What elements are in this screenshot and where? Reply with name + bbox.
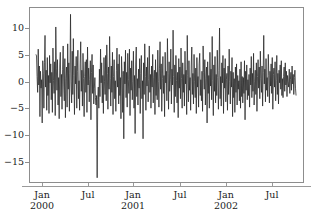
x-axis-line bbox=[22, 186, 311, 187]
x-tick-month: Jul bbox=[82, 189, 95, 200]
x-tick-mark bbox=[226, 183, 227, 187]
x-tick-mark bbox=[180, 183, 181, 187]
x-tick-month: Jan bbox=[218, 189, 234, 200]
x-tick-label: Jul bbox=[82, 190, 95, 201]
x-tick-mark bbox=[133, 183, 134, 187]
y-tick-mark bbox=[25, 162, 29, 163]
y-axis: 1050−5−10−15 bbox=[0, 0, 24, 221]
y-tick-mark bbox=[25, 108, 29, 109]
y-tick-label: 0 bbox=[18, 77, 24, 87]
x-tick-month: Jan bbox=[34, 189, 50, 200]
x-tick-year: 2000 bbox=[30, 201, 54, 212]
x-tick-mark bbox=[272, 183, 273, 187]
x-tick-label: Jul bbox=[174, 190, 187, 201]
x-tick-month: Jul bbox=[174, 189, 187, 200]
x-tick-mark bbox=[88, 183, 89, 187]
y-tick-label: 5 bbox=[18, 50, 24, 60]
time-series-figure: 1050−5−10−15 Jan2000JulJan2001JulJan2002… bbox=[0, 0, 316, 221]
x-tick-month: Jul bbox=[266, 189, 279, 200]
x-tick-label: Jan2000 bbox=[30, 190, 54, 212]
y-tick-mark bbox=[25, 55, 29, 56]
y-tick-mark bbox=[25, 135, 29, 136]
series-line-1 bbox=[30, 8, 303, 182]
y-tick-mark bbox=[25, 82, 29, 83]
y-tick-label: −15 bbox=[4, 157, 24, 167]
y-tick-label: −10 bbox=[4, 130, 24, 140]
x-tick-label: Jan2001 bbox=[121, 190, 145, 212]
y-tick-label: −5 bbox=[10, 103, 24, 113]
x-tick-year: 2002 bbox=[214, 201, 238, 212]
y-tick-label: 10 bbox=[12, 23, 24, 33]
x-tick-label: Jan2002 bbox=[214, 190, 238, 212]
x-tick-month: Jan bbox=[125, 189, 141, 200]
y-tick-mark bbox=[25, 28, 29, 29]
plot-area bbox=[29, 7, 304, 183]
x-tick-year: 2001 bbox=[121, 201, 145, 212]
x-tick-mark bbox=[42, 183, 43, 187]
x-tick-label: Jul bbox=[266, 190, 279, 201]
